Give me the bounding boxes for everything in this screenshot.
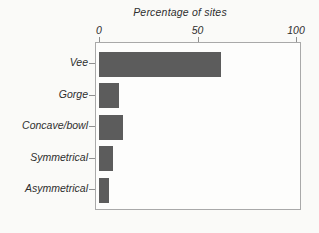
y-axis-tick [89, 126, 95, 127]
y-axis-tick [89, 63, 95, 64]
category-label: Symmetrical [30, 151, 88, 163]
y-axis-tick [89, 158, 95, 159]
x-axis-tick [296, 37, 297, 42]
x-axis-tick [99, 37, 100, 42]
bar-concave-bowl [99, 115, 123, 140]
category-label: Concave/bowl [22, 119, 88, 131]
y-axis-tick [89, 95, 95, 96]
bar-symmetrical [99, 146, 113, 171]
x-axis-tick-label: 50 [178, 24, 218, 36]
x-axis-tick-label: 100 [276, 24, 316, 36]
x-axis-tick-label: 0 [79, 24, 119, 36]
category-label: Gorge [59, 88, 88, 100]
category-label: Asymmetrical [25, 182, 88, 194]
y-axis-tick [89, 189, 95, 190]
chart-title: Percentage of sites [60, 6, 300, 18]
plot-area: 050100 [95, 42, 301, 210]
bar-gorge [99, 83, 119, 108]
bar-vee [99, 52, 221, 77]
bar-asymmetrical [99, 178, 109, 203]
category-label: Vee [70, 56, 88, 68]
bar-chart: Percentage of sites 050100 VeeGorgeConca… [0, 0, 319, 233]
x-axis-tick [198, 37, 199, 42]
